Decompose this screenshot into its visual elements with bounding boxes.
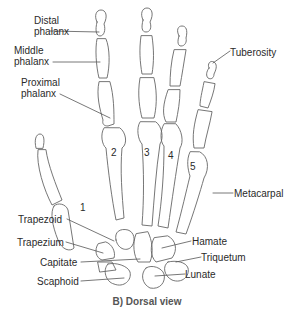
label-lunate: Lunate — [185, 269, 216, 280]
label-scaphoid: Scaphoid — [37, 276, 79, 287]
thumb-bones — [35, 134, 74, 250]
label-proximal-phalanx: Proximal phalanx — [21, 77, 60, 99]
label-trapezium: Trapezium — [17, 237, 64, 248]
metacarpal-number-3: 3 — [144, 148, 150, 158]
label-triquetum: Triquetum — [201, 252, 246, 263]
label-middle-phalanx: Middle phalanx — [14, 45, 49, 67]
label-capitate: Capitate — [40, 257, 77, 268]
little-finger-bones — [176, 61, 216, 234]
label-metacarpal: Metacarpal — [234, 188, 283, 199]
metacarpal-number-1: 1 — [80, 203, 86, 213]
ring-finger-bones — [158, 26, 187, 228]
label-distal-line1: Distal — [34, 15, 69, 26]
label-proximal-line2: phalanx — [21, 88, 60, 99]
label-distal-phalanx: Distal phalanx — [34, 15, 69, 37]
index-finger-bones — [96, 10, 126, 220]
label-tuberosity: Tuberosity — [230, 47, 276, 58]
metacarpal-number-5: 5 — [190, 162, 196, 172]
label-middle-line2: phalanx — [14, 56, 49, 67]
label-middle-line1: Middle — [14, 45, 49, 56]
metacarpal-number-2: 2 — [111, 148, 117, 158]
metacarpal-number-4: 4 — [168, 151, 174, 161]
label-hamate: Hamate — [192, 236, 227, 247]
carpal-bones — [96, 229, 188, 288]
label-distal-line2: phalanx — [34, 26, 69, 37]
label-proximal-line1: Proximal — [21, 77, 60, 88]
figure-caption: B) Dorsal view — [0, 296, 294, 307]
label-trapezoid: Trapezoid — [18, 214, 62, 225]
middle-finger-bones — [138, 8, 162, 226]
hand-bones-diagram: Distal phalanx Middle phalanx Proximal p… — [0, 0, 294, 318]
